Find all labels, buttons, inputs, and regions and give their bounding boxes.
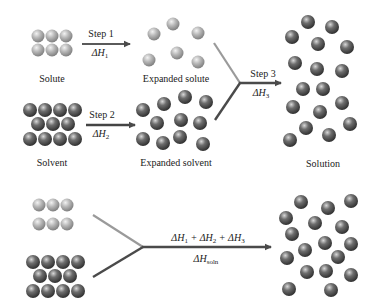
particle-sphere xyxy=(173,130,187,144)
particle-sphere xyxy=(143,54,156,67)
step2-enthalpy: ΔH2 xyxy=(92,128,110,141)
particle-sphere xyxy=(41,255,55,269)
particle-sphere xyxy=(47,218,60,231)
particle-sphere xyxy=(171,47,184,60)
overall-enthalpy-label: ΔHsoln xyxy=(193,253,219,266)
particle-sphere xyxy=(31,117,45,131)
particle-sphere xyxy=(60,44,73,57)
particle-sphere xyxy=(299,121,313,135)
expanded-solute-particles xyxy=(143,18,205,69)
particle-sphere xyxy=(300,265,314,279)
particle-sphere xyxy=(335,64,349,78)
particle-sphere xyxy=(38,103,52,117)
particle-sphere xyxy=(47,199,60,212)
particle-sphere xyxy=(167,18,180,31)
overall-solvent-branch xyxy=(93,247,143,277)
particle-sphere xyxy=(136,103,150,117)
particle-sphere xyxy=(285,30,299,44)
step3-label: Step 3 xyxy=(250,68,275,79)
particle-sphere xyxy=(46,117,60,131)
enthalpy-diagram: Step 1 ΔH1 Step 2 ΔH2 Step 3 ΔH3 Solute … xyxy=(0,0,379,307)
particle-sphere xyxy=(316,82,330,96)
particle-sphere xyxy=(71,284,85,298)
particle-sphere xyxy=(26,255,40,269)
particle-sphere xyxy=(23,132,37,146)
bottom-solution-particles xyxy=(279,194,358,297)
solution-particles-a xyxy=(285,15,354,70)
overall-solute-branch xyxy=(93,215,143,247)
particle-sphere xyxy=(46,44,59,57)
particle-sphere xyxy=(344,268,358,282)
particle-sphere xyxy=(196,137,210,151)
particle-sphere xyxy=(283,133,297,147)
particle-sphere xyxy=(33,199,46,212)
bottom-solute-particles xyxy=(33,199,74,231)
particle-sphere xyxy=(71,255,85,269)
solute-particles xyxy=(32,30,73,57)
particle-sphere xyxy=(335,220,349,234)
particle-sphere xyxy=(56,255,70,269)
particle-sphere xyxy=(288,56,302,70)
particle-sphere xyxy=(193,116,207,130)
solution-particles-b xyxy=(283,62,357,147)
particle-sphere xyxy=(344,194,358,208)
expanded-solvent-label: Expanded solvent xyxy=(140,157,212,168)
particle-sphere xyxy=(311,37,325,51)
particle-sphere xyxy=(68,132,82,146)
expanded-solute-label: Expanded solute xyxy=(143,73,210,84)
particle-sphere xyxy=(331,250,345,264)
particle-sphere xyxy=(53,103,67,117)
particle-sphere xyxy=(310,62,324,76)
particle-sphere xyxy=(23,103,37,117)
particle-sphere xyxy=(318,236,332,250)
particle-sphere xyxy=(157,97,171,111)
particle-sphere xyxy=(286,100,300,114)
particle-sphere xyxy=(56,284,70,298)
particle-sphere xyxy=(192,56,205,69)
step3-solute-branch xyxy=(214,43,240,83)
particle-sphere xyxy=(279,211,293,225)
particle-sphere xyxy=(298,243,312,257)
particle-sphere xyxy=(150,116,164,130)
particle-sphere xyxy=(68,103,82,117)
particle-sphere xyxy=(335,96,349,110)
particle-sphere xyxy=(340,40,354,54)
solvent-particles xyxy=(23,103,82,146)
particle-sphere xyxy=(308,216,322,230)
particle-sphere xyxy=(32,44,45,57)
particle-sphere xyxy=(41,284,55,298)
step1-label: Step 1 xyxy=(88,28,113,39)
particle-sphere xyxy=(33,218,46,231)
particle-sphere xyxy=(296,82,310,96)
particle-sphere xyxy=(60,30,73,43)
step2-label: Step 2 xyxy=(89,109,114,120)
particle-sphere xyxy=(285,227,299,241)
solvent-label: Solvent xyxy=(37,157,68,168)
solution-label: Solution xyxy=(306,158,340,169)
step3-solvent-branch xyxy=(215,83,240,120)
particle-sphere xyxy=(192,27,205,40)
particle-sphere xyxy=(322,128,336,142)
particle-sphere xyxy=(282,282,296,296)
particle-sphere xyxy=(294,195,308,209)
particle-sphere xyxy=(325,20,339,34)
particle-sphere xyxy=(344,237,358,251)
particle-sphere xyxy=(321,201,335,215)
solute-label: Solute xyxy=(39,73,65,84)
particle-sphere xyxy=(26,284,40,298)
particle-sphere xyxy=(199,95,213,109)
particle-sphere xyxy=(319,264,333,278)
step3-enthalpy: ΔH3 xyxy=(252,87,270,100)
particle-sphere xyxy=(61,218,74,231)
expanded-solvent-particles xyxy=(136,90,213,151)
particle-sphere xyxy=(280,251,294,265)
particle-sphere xyxy=(136,132,150,146)
particle-sphere xyxy=(343,117,357,131)
particle-sphere xyxy=(32,30,45,43)
particle-sphere xyxy=(174,113,188,127)
particle-sphere xyxy=(53,132,67,146)
particle-sphere xyxy=(38,132,52,146)
particle-sphere xyxy=(46,30,59,43)
step1-enthalpy: ΔH1 xyxy=(91,47,109,60)
particle-sphere xyxy=(301,15,315,29)
